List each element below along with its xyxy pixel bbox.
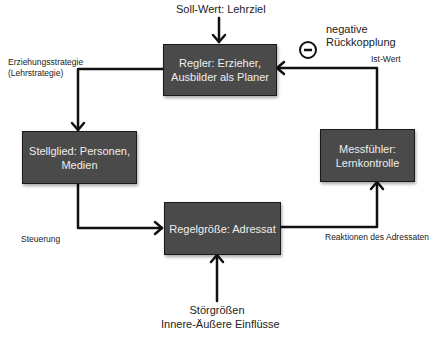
ist-wert-label: Ist-Wert: [371, 54, 401, 64]
regler-line1: Regler: Erzieher,: [171, 56, 269, 70]
negative-label: negative Rückkopplung: [326, 23, 396, 49]
stoergroessen-label: Störgrößen Innere-Äußere Einflüsse: [161, 303, 273, 331]
regler-box: Regler: Erzieher,Ausbilder als Planer: [163, 44, 277, 96]
soll-wert-label: Soll-Wert: Lehrziel: [176, 3, 266, 15]
stellglied-line2: Medien: [29, 158, 130, 172]
regelgroesse-box: Regelgröße: Adressat: [164, 202, 281, 255]
reaktionen-label: Reaktionen des Adressaten: [325, 232, 429, 242]
stoer-line2: Innere-Äußere Einflüsse: [161, 317, 273, 331]
steuerung-label: Steuerung: [21, 234, 60, 244]
erziehung-line1: Erziehungsstrategie: [8, 57, 83, 68]
negative-line1: negative: [326, 23, 396, 36]
erziehungsstrategie-label: Erziehungsstrategie (Lehrstrategie): [8, 57, 83, 79]
regelgroesse-line1: Regelgröße: Adressat: [169, 222, 275, 236]
erziehung-line2: (Lehrstrategie): [8, 68, 83, 79]
stellglied-box: Stellglied: Personen,Medien: [22, 131, 137, 184]
regler-line2: Ausbilder als Planer: [171, 70, 269, 84]
stellglied-line1: Stellglied: Personen,: [29, 144, 130, 158]
messfuehler-line2: Lernkontrolle: [336, 156, 400, 170]
messfuehler-line1: Messfühler:: [336, 142, 400, 156]
messfuehler-box: Messfühler:Lernkontrolle: [320, 129, 415, 182]
negative-line2: Rückkopplung: [326, 36, 396, 49]
stoer-line1: Störgrößen: [161, 303, 273, 317]
